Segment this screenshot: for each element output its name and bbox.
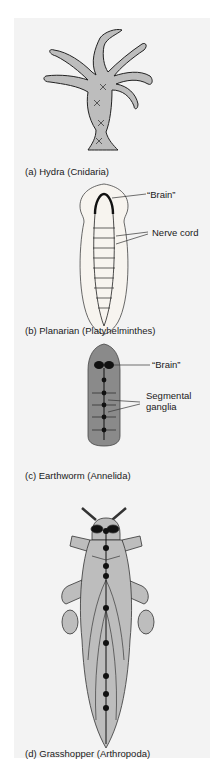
earthworm-illustration <box>88 344 150 446</box>
earthworm-brain-label: “Brain” <box>152 359 181 370</box>
hydra-illustration <box>44 29 152 150</box>
planarian-brain-label: “Brain” <box>147 189 176 200</box>
caption-hydra: (a) Hydra (Cnidaria) <box>25 166 109 177</box>
earthworm-segmental-label: Segmental <box>146 390 191 401</box>
caption-earthworm: (c) Earthworm (Annelida) <box>25 470 131 481</box>
nervous-system-diagram <box>0 0 216 773</box>
caption-planarian: (b) Planarian (Platyhelminthes) <box>25 325 155 336</box>
caption-grasshopper: (d) Grasshopper (Arthropoda) <box>25 748 150 759</box>
planarian-illustration <box>80 184 148 334</box>
planarian-nerve-cord-label: Nerve cord <box>152 227 198 238</box>
earthworm-ganglia-label: ganglia <box>146 401 177 412</box>
grasshopper-illustration <box>62 508 154 748</box>
